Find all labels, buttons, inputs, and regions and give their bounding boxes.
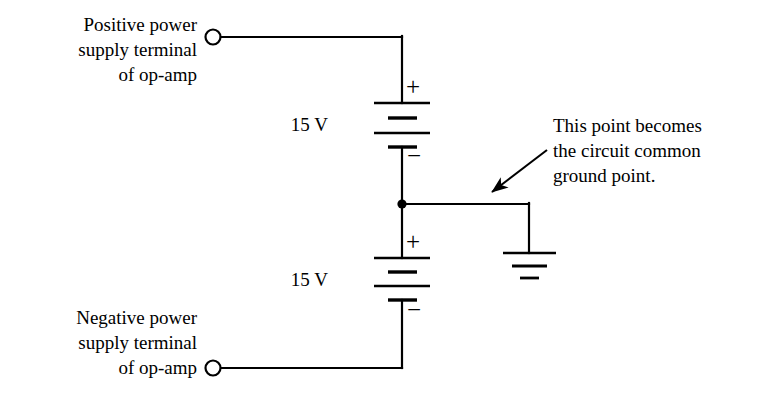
negative-supply-branch [206, 300, 403, 376]
ground-connection-wire [402, 203, 529, 253]
battery-bottom-minus-sign: − [407, 297, 421, 322]
terminal-circle-negative [206, 361, 221, 376]
battery-top-voltage-label: 15 V [268, 115, 328, 135]
annotation-ground-point-text: This point becomes the circuit common gr… [553, 113, 702, 188]
label-positive-line-3: of op-amp [22, 62, 197, 87]
battery-bottom-plus-sign: + [406, 229, 420, 254]
terminal-circle-positive [206, 30, 221, 45]
battery-symbol-bottom [374, 258, 430, 300]
label-negative-line-1: Negative power [22, 305, 197, 330]
label-negative-supply-terminal: Negative power supply terminal of op-amp [22, 305, 197, 380]
arrow-line-to-ground-node [492, 150, 547, 192]
label-negative-line-3: of op-amp [22, 355, 197, 380]
annotation-line-3: ground point. [553, 163, 702, 188]
battery-symbol-top [374, 103, 430, 204]
label-negative-line-2: supply terminal [22, 330, 197, 355]
ground-symbol [503, 253, 556, 278]
battery-top-plus-sign: + [406, 74, 420, 99]
positive-supply-branch [206, 30, 403, 104]
battery-bottom-voltage-label: 15 V [268, 270, 328, 290]
label-positive-supply-terminal: Positive power supply terminal of op-amp [22, 12, 197, 87]
annotation-arrow [492, 150, 547, 192]
annotation-line-2: the circuit common [553, 138, 702, 163]
annotation-line-1: This point becomes [553, 113, 702, 138]
label-positive-line-1: Positive power [22, 12, 197, 37]
circuit-diagram: Positive power supply terminal of op-amp… [0, 0, 763, 404]
label-positive-line-2: supply terminal [22, 37, 197, 62]
battery-top-minus-sign: − [407, 143, 421, 168]
